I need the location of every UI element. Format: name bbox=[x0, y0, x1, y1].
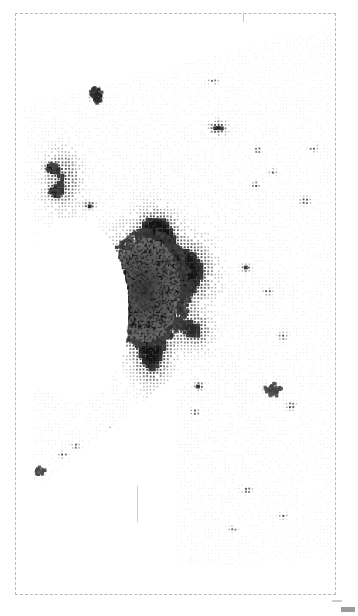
top-border-tick-mark bbox=[243, 13, 244, 22]
figure-page bbox=[0, 0, 358, 616]
vertical-line-artifact bbox=[137, 486, 138, 522]
map-neatline-frame bbox=[15, 13, 336, 595]
bottom-right-faint-mark bbox=[332, 600, 342, 602]
bottom-right-corner-mark bbox=[341, 607, 355, 612]
